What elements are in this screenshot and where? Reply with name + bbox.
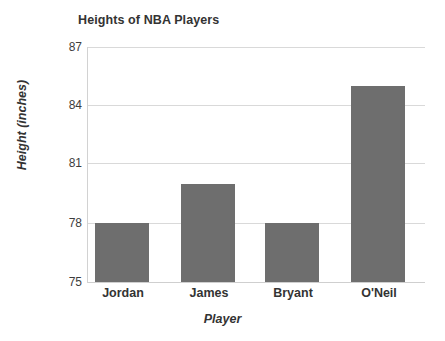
- y-axis-title: Height (inches): [15, 65, 29, 185]
- y-tick-label-78: 78: [48, 216, 82, 230]
- gridline-75-baseline: [88, 282, 425, 283]
- x-tick-label-james: James: [174, 286, 244, 300]
- x-tick-label-oneil: O'Neil: [344, 286, 414, 300]
- bar-james: [181, 184, 235, 282]
- y-axis-tick-labels: 87 84 81 78 75: [24, 0, 82, 341]
- bar-chart-figure: Heights of NBA Players 87 84 81 78 75 He…: [0, 0, 445, 341]
- x-tick-label-bryant: Bryant: [258, 286, 328, 300]
- bar-oneil: [351, 86, 405, 282]
- y-tick-label-81: 81: [48, 156, 82, 170]
- x-tick-label-jordan: Jordan: [88, 286, 158, 300]
- x-axis-title: Player: [0, 312, 445, 326]
- plot-area: [88, 47, 425, 282]
- y-tick-label-87: 87: [48, 40, 82, 54]
- y-tick-label-75: 75: [48, 275, 82, 289]
- gridline-87: [88, 47, 425, 48]
- bar-bryant: [265, 223, 319, 282]
- bar-jordan: [95, 223, 149, 282]
- y-tick-label-84: 84: [48, 98, 82, 112]
- chart-title: Heights of NBA Players: [78, 13, 219, 27]
